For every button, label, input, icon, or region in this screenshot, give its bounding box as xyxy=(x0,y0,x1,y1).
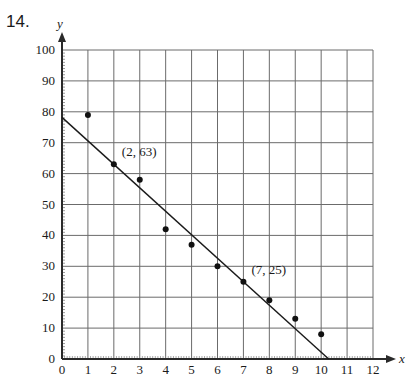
y-tick-label: 30 xyxy=(42,258,55,273)
x-tick-label: 7 xyxy=(240,362,247,377)
x-tick-label: 10 xyxy=(315,362,328,377)
data-point xyxy=(240,279,246,285)
y-tick-label: 80 xyxy=(42,104,55,119)
y-tick-label: 50 xyxy=(42,197,55,212)
x-tick-label: 9 xyxy=(292,362,299,377)
x-axis-label: x xyxy=(398,351,405,366)
data-point xyxy=(266,297,272,303)
data-point xyxy=(292,316,298,322)
x-tick-label: 6 xyxy=(214,362,221,377)
y-tick-label: 90 xyxy=(42,73,55,88)
x-tick-label: 5 xyxy=(188,362,195,377)
point-annotation: (7, 25) xyxy=(251,262,286,277)
data-point xyxy=(163,226,169,232)
data-point xyxy=(137,177,143,183)
data-point xyxy=(215,263,221,269)
x-tick-label: 0 xyxy=(59,362,66,377)
scatter-plot: yx01020304050607080901000123456789101112… xyxy=(0,0,419,387)
y-tick-label: 40 xyxy=(42,227,55,242)
x-tick-label: 1 xyxy=(85,362,92,377)
y-axis-arrow-icon xyxy=(58,32,66,42)
point-annotation: (2, 63) xyxy=(122,144,157,159)
y-tick-label: 70 xyxy=(42,135,55,150)
y-tick-label: 20 xyxy=(42,289,55,304)
line-of-fit xyxy=(62,117,329,359)
y-tick-label: 10 xyxy=(42,320,55,335)
data-point xyxy=(318,331,324,337)
x-tick-label: 8 xyxy=(266,362,273,377)
x-axis-arrow-icon xyxy=(386,355,396,363)
data-point xyxy=(85,112,91,118)
x-tick-label: 11 xyxy=(341,362,354,377)
x-tick-label: 4 xyxy=(162,362,169,377)
x-tick-label: 3 xyxy=(137,362,144,377)
y-axis-label: y xyxy=(55,16,63,31)
y-tick-label: 60 xyxy=(42,166,55,181)
y-tick-label: 100 xyxy=(36,42,56,57)
x-tick-label: 2 xyxy=(111,362,118,377)
y-tick-label: 0 xyxy=(49,351,56,366)
data-point xyxy=(189,242,195,248)
data-point xyxy=(111,161,117,167)
x-tick-label: 12 xyxy=(367,362,380,377)
